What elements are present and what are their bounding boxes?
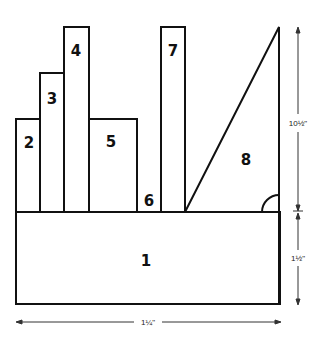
piece-label-3: 3: [47, 90, 57, 108]
piece-label-8: 8: [241, 151, 251, 169]
piece-label-1: 1: [141, 252, 151, 270]
piece-2: [16, 119, 40, 212]
piece-label-4: 4: [71, 42, 81, 60]
piece-8: [185, 27, 279, 212]
width-label: 1¼": [141, 318, 155, 327]
piece-label-2: 2: [24, 134, 34, 152]
piece-label-6: 6: [144, 192, 154, 210]
lower-height-label: 1½": [291, 254, 305, 263]
upper-height-label: 10½": [289, 119, 308, 128]
puzzle-diagram: 1 2 3 4 5 6 7 8 10½" 1½" 1¼": [0, 0, 319, 339]
piece-label-5: 5: [106, 133, 116, 151]
piece-label-7: 7: [168, 42, 178, 60]
